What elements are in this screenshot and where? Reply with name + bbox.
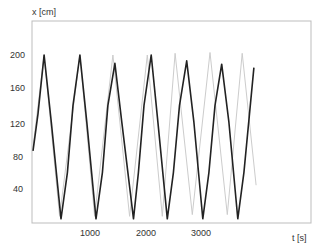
x-tick-3000: 3000 (191, 228, 211, 238)
y-tick-80: 80 (13, 152, 23, 162)
y-tick-200: 200 (10, 50, 25, 60)
x-tick-1000: 1000 (80, 228, 100, 238)
y-tick-40: 40 (13, 184, 23, 194)
y-axis-label: x [cm] (32, 7, 56, 17)
oscillation-chart: x [cm] t [s] 200 160 120 80 40 1000 2000… (0, 0, 319, 248)
x-axis-label: t [s] (292, 233, 307, 243)
x-ticks: 1000 2000 3000 (80, 228, 211, 238)
y-tick-120: 120 (10, 119, 25, 129)
y-ticks: 200 160 120 80 40 (10, 50, 25, 194)
x-tick-2000: 2000 (136, 228, 156, 238)
y-tick-160: 160 (10, 83, 25, 93)
